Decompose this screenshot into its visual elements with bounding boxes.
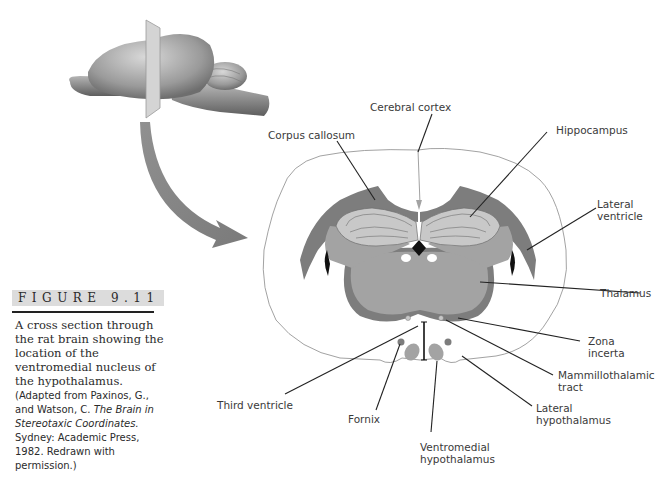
label-thalamus: Thalamus	[600, 287, 651, 299]
label-line: Ventromedial	[420, 441, 495, 453]
label-line: ventricle	[597, 210, 643, 222]
label-hippocampus: Hippocampus	[556, 124, 628, 136]
figure-caption: A cross section through the rat brain sh…	[15, 318, 165, 472]
label-line: tract	[558, 381, 655, 393]
label-line: Mammillothalamic	[558, 369, 655, 381]
label-line: hypothalamus	[420, 453, 495, 465]
label-mammillothalamic-tract: Mammillothalamic tract	[558, 369, 655, 393]
label-corpus-callosum: Corpus callosum	[268, 129, 355, 141]
label-line: Lateral	[597, 198, 643, 210]
label-line: hypothalamus	[536, 414, 611, 426]
section-arrow	[140, 122, 248, 248]
label-third-ventricle: Third ventricle	[217, 399, 293, 411]
label-line: Zona	[588, 335, 625, 347]
label-line: incerta	[588, 347, 625, 359]
whole-brain-illustration	[69, 20, 269, 118]
caption-main: A cross section through the rat brain sh…	[15, 318, 164, 388]
figure-rule	[12, 311, 154, 313]
caption-source-end: Sydney: Academic Press, 1982. Redrawn wi…	[15, 432, 139, 471]
figure-number: FIGURE 9.11	[18, 291, 160, 305]
label-lateral-hypothalamus: Lateral hypothalamus	[536, 402, 611, 426]
label-fornix: Fornix	[348, 413, 380, 425]
label-ventromedial-hypothalamus: Ventromedial hypothalamus	[420, 441, 495, 465]
label-lateral-ventricle: Lateral ventricle	[597, 198, 643, 222]
label-zona-incerta: Zona incerta	[588, 335, 625, 359]
label-cerebral-cortex: Cerebral cortex	[370, 101, 451, 113]
coronal-section	[263, 148, 566, 363]
label-line: Lateral	[536, 402, 611, 414]
